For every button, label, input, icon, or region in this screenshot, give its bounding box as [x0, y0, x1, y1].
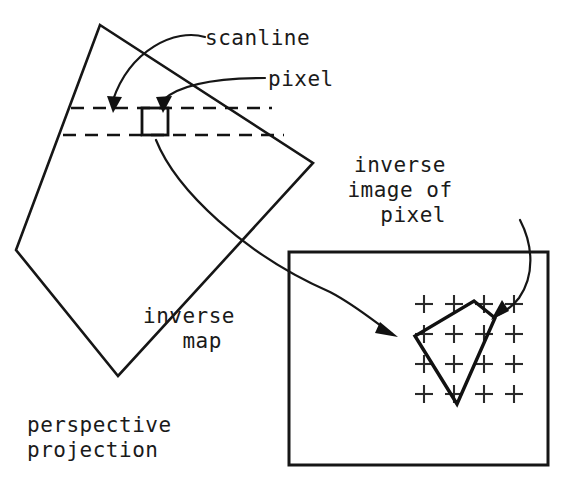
label-inverse-image-line2: image of [347, 178, 452, 202]
scanline-arrowhead [107, 96, 122, 113]
scanline-leader-curve [113, 35, 205, 100]
label-inverse-map-line1: inverse [143, 304, 235, 328]
label-inverse-image-line3: pixel [380, 203, 446, 227]
label-perspective-line2: projection [27, 438, 158, 462]
label-inverse-map: inverse map [143, 304, 327, 353]
label-perspective-line1: perspective [27, 413, 172, 437]
pixel-square [142, 108, 168, 135]
label-inverse-map-line2: map [182, 329, 221, 353]
pixel-leader-curve [163, 78, 265, 100]
label-inverse-image-line1: inverse [354, 153, 446, 177]
label-scanline: scanline [205, 26, 310, 50]
label-perspective-projection: perspective projection [27, 413, 264, 462]
perspective-inverse-map-diagram: scanline pixel inverse image of pixel in… [0, 0, 563, 487]
texture-space-box [289, 252, 548, 465]
label-inverse-image-of-pixel: inverse image of pixel [347, 153, 544, 227]
diagram-canvas: scanline pixel inverse image of pixel in… [0, 0, 563, 487]
pixel-arrowhead [156, 96, 172, 113]
inverse-image-leader-curve [494, 220, 530, 317]
label-pixel: pixel [268, 67, 334, 91]
